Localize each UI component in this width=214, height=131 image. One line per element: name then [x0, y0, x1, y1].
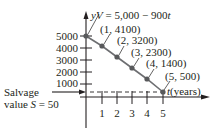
y-tick-labels: 5000 4000 3000 2000 1000: [56, 30, 79, 89]
x-tick-1: 1: [99, 107, 105, 119]
x-axis-arrow-icon: [201, 95, 210, 100]
y-tick-5000: 5000: [56, 30, 79, 42]
point-2: [114, 54, 119, 59]
point-label-5: (5, 500): [165, 70, 200, 83]
salvage-arrow-icon: [79, 90, 86, 95]
point-1: [99, 43, 104, 48]
y-tick-1000: 1000: [56, 77, 79, 89]
salvage-label-line2: value S = 50: [4, 98, 59, 110]
x-axis-label: t(years): [167, 85, 201, 98]
x-tick-2: 2: [114, 107, 120, 119]
y-tick-3000: 3000: [56, 54, 79, 66]
y-tick-4000: 4000: [56, 42, 79, 54]
point-3: [129, 65, 134, 70]
point-label-4: (4, 1400): [146, 57, 187, 70]
point-0: [83, 33, 88, 38]
x-tick-3: 3: [129, 107, 135, 119]
depreciation-chart: y t(years) 5000 4000 3000 2000 1000 1 2 …: [0, 0, 214, 131]
y-axis-arrow-icon: [84, 11, 89, 19]
salvage-label-line1: Salvage: [4, 86, 39, 98]
equation-label: V = 5,000 − 900t: [96, 9, 171, 21]
x-tick-5: 5: [160, 107, 166, 119]
x-tick-labels: 1 2 3 4 5: [99, 107, 166, 119]
x-tick-4: 4: [144, 107, 150, 119]
point-4: [144, 76, 149, 81]
point-5: [160, 89, 165, 94]
